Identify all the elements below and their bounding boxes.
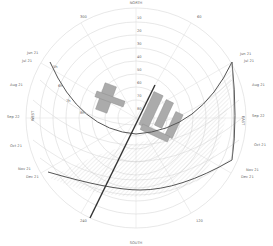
svg-text:5h: 5h: [53, 65, 58, 69]
svg-text:Dec 21: Dec 21: [26, 175, 39, 179]
svg-text:Dec 21: Dec 21: [241, 175, 254, 179]
svg-text:7h: 7h: [66, 99, 71, 103]
azimuth-240: 240: [80, 219, 88, 223]
label-south: SOUTH: [130, 241, 143, 245]
svg-text:40: 40: [137, 55, 142, 59]
svg-text:Nov 21: Nov 21: [246, 168, 259, 172]
svg-text:Sep 22: Sep 22: [252, 114, 265, 118]
label-west: WEST: [31, 110, 35, 121]
svg-text:80: 80: [137, 107, 142, 111]
svg-text:Oct 21: Oct 21: [254, 143, 266, 147]
svg-text:Aug 21: Aug 21: [10, 83, 23, 87]
svg-text:Oct 21: Oct 21: [10, 144, 22, 148]
label-north: NORTH: [130, 1, 143, 5]
azimuth-60: 60: [197, 15, 202, 19]
altitude-labels: 10 20 30 40 50 60 70 80: [137, 16, 142, 111]
svg-text:50: 50: [137, 68, 142, 72]
svg-text:Jun 21: Jun 21: [26, 51, 38, 55]
label-east: EAST: [241, 116, 245, 126]
svg-text:6h: 6h: [58, 84, 63, 88]
svg-text:Jul 21: Jul 21: [243, 59, 254, 63]
svg-text:10: 10: [137, 16, 142, 20]
svg-text:Nov 21: Nov 21: [18, 167, 31, 171]
azimuth-300: 300: [80, 15, 88, 19]
svg-text:Sep 22: Sep 22: [7, 115, 20, 119]
svg-text:20: 20: [137, 29, 142, 33]
azimuth-120: 120: [196, 219, 204, 223]
svg-text:8h: 8h: [80, 111, 85, 115]
svg-text:60: 60: [137, 81, 142, 85]
svg-text:70: 70: [137, 94, 142, 98]
svg-text:Jun 21: Jun 21: [239, 52, 251, 56]
sun-path-diagram: NORTH SOUTH WEST EAST 300 60 120 240 10 …: [0, 0, 273, 246]
svg-text:Jul 21: Jul 21: [21, 59, 32, 63]
svg-text:30: 30: [137, 42, 142, 46]
svg-text:Aug 21: Aug 21: [252, 83, 265, 87]
